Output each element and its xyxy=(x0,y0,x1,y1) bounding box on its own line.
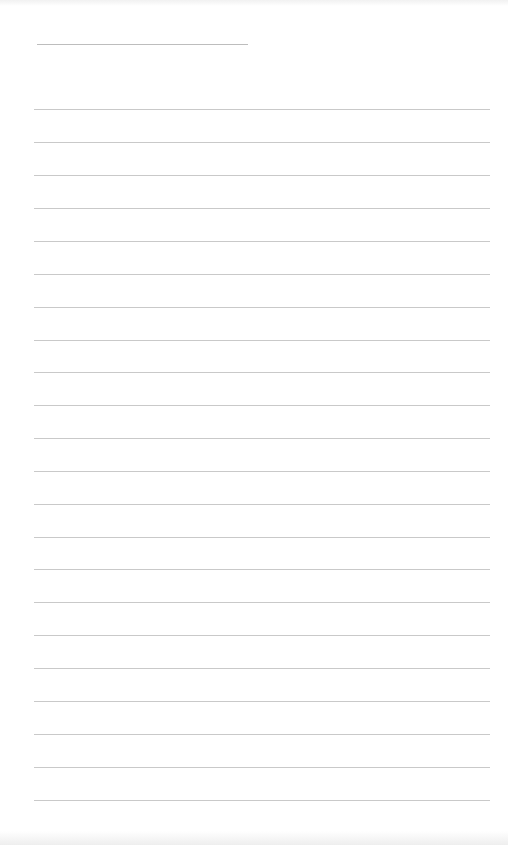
ruled-line xyxy=(34,405,490,406)
header-rule-line xyxy=(37,44,248,45)
ruled-line xyxy=(34,471,490,472)
ruled-line xyxy=(34,438,490,439)
ruled-line xyxy=(34,800,490,801)
ruled-line xyxy=(34,142,490,143)
ruled-line xyxy=(34,701,490,702)
ruled-line xyxy=(34,340,490,341)
scan-edge-top xyxy=(0,0,508,6)
ruled-line xyxy=(34,208,490,209)
ruled-line xyxy=(34,635,490,636)
ruled-line xyxy=(34,307,490,308)
ruled-line xyxy=(34,537,490,538)
ruled-line xyxy=(34,668,490,669)
scan-edge-bottom xyxy=(0,831,508,845)
ruled-line xyxy=(34,734,490,735)
lined-paper-page xyxy=(0,0,508,845)
ruled-line xyxy=(34,372,490,373)
ruled-line xyxy=(34,241,490,242)
ruled-line xyxy=(34,274,490,275)
ruled-line xyxy=(34,602,490,603)
ruled-line xyxy=(34,504,490,505)
ruled-line xyxy=(34,175,490,176)
ruled-line xyxy=(34,569,490,570)
ruled-line xyxy=(34,109,490,110)
ruled-line xyxy=(34,767,490,768)
